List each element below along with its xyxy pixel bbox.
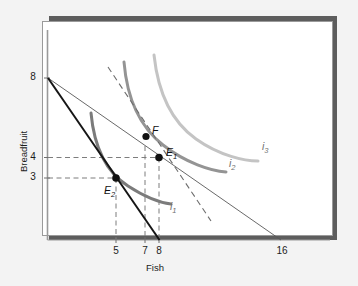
point-label-E1-sub: 1	[173, 152, 177, 161]
point-label-E1-base: E	[166, 146, 173, 158]
curve-label-i2-sub: 2	[231, 163, 235, 172]
x-tick-label-5: 5	[109, 245, 123, 256]
point-label-E1: E1	[166, 146, 177, 161]
data-point-E2	[112, 174, 120, 182]
y-tick-label-4: 4	[26, 151, 40, 162]
y-tick-label-3: 3	[26, 171, 40, 182]
curve-label-i3-sub: 3	[264, 146, 268, 155]
budget-line-steep	[48, 78, 160, 240]
curve-label-i1: i1	[170, 200, 177, 215]
point-label-E2-base: E	[104, 184, 111, 196]
x-axis-title: Fish	[146, 262, 164, 273]
point-label-E2: E2	[104, 184, 115, 199]
compensated-price-line	[108, 67, 211, 221]
x-tick-label-16: 16	[273, 245, 291, 256]
x-tick-label-7: 7	[138, 245, 152, 256]
y-tick-label-8: 8	[26, 71, 40, 82]
x-tick-label-8: 8	[152, 245, 166, 256]
point-label-F: F	[152, 124, 158, 136]
curve-label-i1-sub: 1	[172, 206, 176, 215]
data-point-E1	[155, 154, 163, 162]
point-label-E2-sub: 2	[111, 190, 115, 199]
data-point-F	[142, 133, 149, 140]
curve-label-i2: i2	[229, 157, 236, 172]
chart-canvas	[0, 0, 358, 286]
figure-root: Breadfruit Fish 8 4 3 5 7 8 16 F E1 E2 i…	[0, 0, 358, 286]
curve-label-i3: i3	[262, 140, 269, 155]
